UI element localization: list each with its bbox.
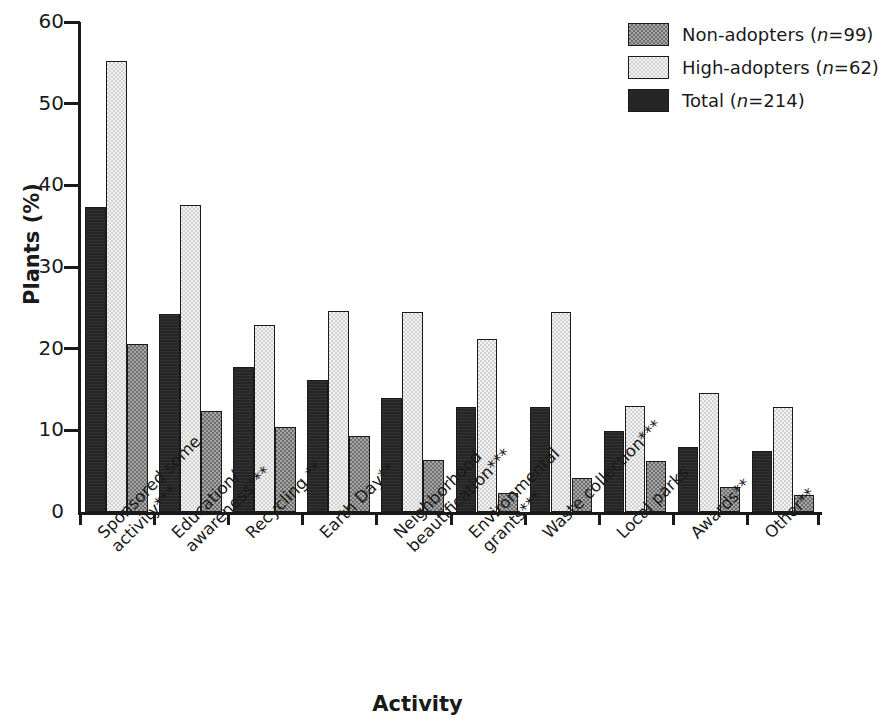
y-tick-10 [64, 429, 80, 432]
x-axis-category-labels: Sponsored someactivity***Education/aware… [78, 515, 838, 695]
legend-label-total: Total (n=214) [682, 90, 805, 111]
bar-total [381, 398, 402, 512]
legend-label-non: Non-adopters (n=99) [682, 24, 873, 45]
y-tick-20 [64, 347, 80, 350]
bar-total [307, 380, 328, 512]
chart-legend: Non-adopters (n=99)High-adopters (n=62)T… [628, 18, 833, 117]
bar-group [303, 22, 377, 512]
legend-label-high: High-adopters (n=62) [682, 57, 879, 78]
y-tick-label-0: 0 [20, 501, 64, 521]
legend-swatch-high [628, 56, 669, 79]
y-tick-label-20: 20 [20, 338, 64, 358]
bar-high [699, 393, 720, 512]
y-tick-50 [64, 102, 80, 105]
bar-group [81, 22, 155, 512]
y-axis-tick-labels: 0102030405060 [12, 22, 64, 515]
y-tick-label-10: 10 [20, 419, 64, 439]
y-tick-label-50: 50 [20, 93, 64, 113]
y-tick-label-30: 30 [20, 256, 64, 276]
legend-swatch-non [628, 23, 669, 46]
bar-group [229, 22, 303, 512]
y-tick-label-40: 40 [20, 174, 64, 194]
bar-total [85, 207, 106, 512]
y-tick-30 [64, 266, 80, 269]
legend-item-high[interactable]: High-adopters (n=62) [628, 51, 833, 84]
legend-item-non[interactable]: Non-adopters (n=99) [628, 18, 833, 51]
bar-total [752, 451, 773, 512]
legend-item-total[interactable]: Total (n=214) [628, 84, 833, 117]
y-tick-label-60: 60 [20, 11, 64, 31]
bar-group [377, 22, 451, 512]
y-tick-60 [64, 21, 80, 24]
bar-high [773, 407, 794, 512]
x-axis-title: Activity [0, 692, 835, 716]
bar-high [402, 312, 423, 512]
bar-high [328, 311, 349, 512]
y-tick-40 [64, 184, 80, 187]
bar-group [526, 22, 600, 512]
legend-swatch-total [628, 89, 669, 112]
bar-high [106, 61, 127, 512]
